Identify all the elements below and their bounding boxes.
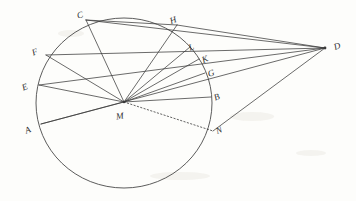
solid-segment-GM	[124, 73, 205, 102]
solid-segment-AD	[41, 48, 325, 124]
solid-segment-FD	[46, 48, 325, 55]
solid-segment-LM	[124, 47, 190, 102]
solid-segment-HD	[177, 25, 325, 48]
solid-lines-group	[39, 20, 326, 131]
dotted-lines-group	[124, 102, 213, 131]
apex-point-marker	[324, 47, 327, 50]
solid-segment-CD	[86, 20, 325, 48]
solid-segment-KM	[124, 59, 199, 102]
solid-segment-HM	[124, 25, 177, 102]
solid-segment-FM	[46, 55, 124, 102]
solid-segment-BM	[124, 97, 211, 102]
dotted-segment-MN	[124, 102, 213, 131]
geometry-svg	[0, 0, 356, 201]
figure-canvas: ABCDEFGHKLMN	[0, 0, 356, 201]
solid-segment-CH	[86, 20, 177, 25]
point-label-m: M	[115, 112, 124, 122]
solid-segment-CM	[86, 20, 124, 102]
solid-segment-EM	[39, 85, 124, 102]
